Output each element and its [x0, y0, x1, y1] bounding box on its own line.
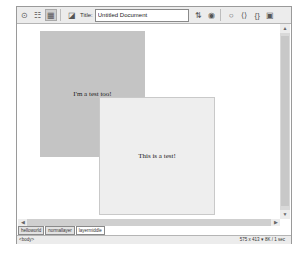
title-input[interactable] [95, 9, 189, 22]
tag-selector[interactable]: <body> [19, 236, 34, 244]
scroll-right-icon[interactable]: ▶ [271, 219, 280, 226]
vertical-scrollbar[interactable]: ▲ ▼ [280, 24, 290, 219]
design-canvas[interactable]: I'm a test too! This is a test! [18, 24, 280, 219]
file-management-icon[interactable]: ⇅ [193, 10, 204, 21]
code-view-icon[interactable]: ⊙ [19, 10, 30, 21]
scroll-thumb[interactable] [281, 36, 289, 206]
status-bar: <body> 575 x 413 ▾ 8K / 1 sec [17, 235, 291, 244]
scroll-up-icon[interactable]: ▲ [280, 24, 290, 33]
braces-icon[interactable]: {} [252, 10, 263, 21]
scroll-left-icon[interactable]: ◀ [18, 219, 27, 226]
tab-helloworld[interactable]: helloworld [18, 226, 44, 235]
preview-icon[interactable]: ◉ [206, 10, 217, 21]
box2-text: This is a test! [138, 152, 176, 160]
split-view-icon[interactable]: ☷ [32, 10, 43, 21]
scroll-down-icon[interactable]: ▼ [280, 210, 290, 219]
live-data-icon[interactable]: ◪ [66, 10, 77, 21]
view-options-icon[interactable]: ⟨⟩ [239, 10, 250, 21]
design-view-icon[interactable]: ▦ [45, 9, 57, 21]
window-size-info: 575 x 413 ▾ 8K / 1 sec [240, 236, 285, 244]
tab-layermiddle[interactable]: layermiddle [76, 226, 105, 235]
document-toolbar: ⊙ ☷ ▦ ◪ Title: ⇅ ◉ ○ ⟨⟩ {} ▣ [17, 7, 291, 24]
horizontal-scrollbar[interactable]: ◀ ▶ [18, 219, 280, 226]
layers-icon[interactable]: ▣ [265, 10, 276, 21]
refresh-icon[interactable]: ○ [226, 10, 237, 21]
title-label: Title: [80, 12, 93, 18]
document-window: ⊙ ☷ ▦ ◪ Title: ⇅ ◉ ○ ⟨⟩ {} ▣ I'm a test … [16, 6, 292, 244]
toolbar-divider [220, 9, 221, 21]
layer-box-light[interactable]: This is a test! [99, 97, 215, 215]
layer-tabs: helloworld normallayer layermiddle [18, 226, 106, 235]
tab-normallayer[interactable]: normallayer [45, 226, 75, 235]
toolbar-divider [60, 9, 61, 21]
